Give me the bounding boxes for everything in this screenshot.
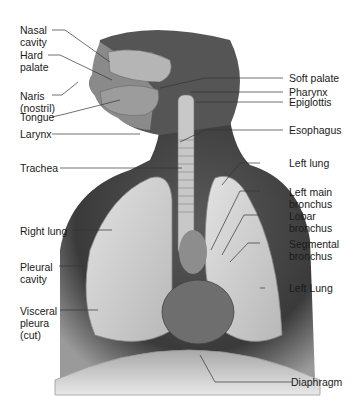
label-trachea: Trachea [20,162,58,174]
label-left-lung: Left lung [289,157,329,169]
label-visceral-pleura: Visceral pleura (cut) [20,305,57,341]
label-soft-palate: Soft palate [289,72,339,84]
label-esophagus: Esophagus [289,124,342,136]
label-larynx: Larynx [20,128,52,140]
label-left-main-bronchus: Left main bronchus [289,186,332,210]
label-epiglottis: Epiglottis [289,96,332,108]
label-diaphragm: Diaphragm [291,376,342,388]
respiratory-diagram: Nasal cavity Hard palate Naris (nostril)… [0,0,362,407]
label-pleural-cavity: Pleural cavity [20,261,53,285]
label-lobar-bronchus: Lobar bronchus [289,210,332,234]
label-tongue: Tongue [20,111,54,123]
heart-shape [162,280,234,344]
label-left-lung-lower: Left Lung [289,282,333,294]
label-segmental-bronchus: Segmental bronchus [289,238,339,262]
label-nasal-cavity: Nasal cavity [20,24,47,48]
label-right-lung: Right lung [20,225,67,237]
label-hard-palate: Hard palate [20,49,49,73]
